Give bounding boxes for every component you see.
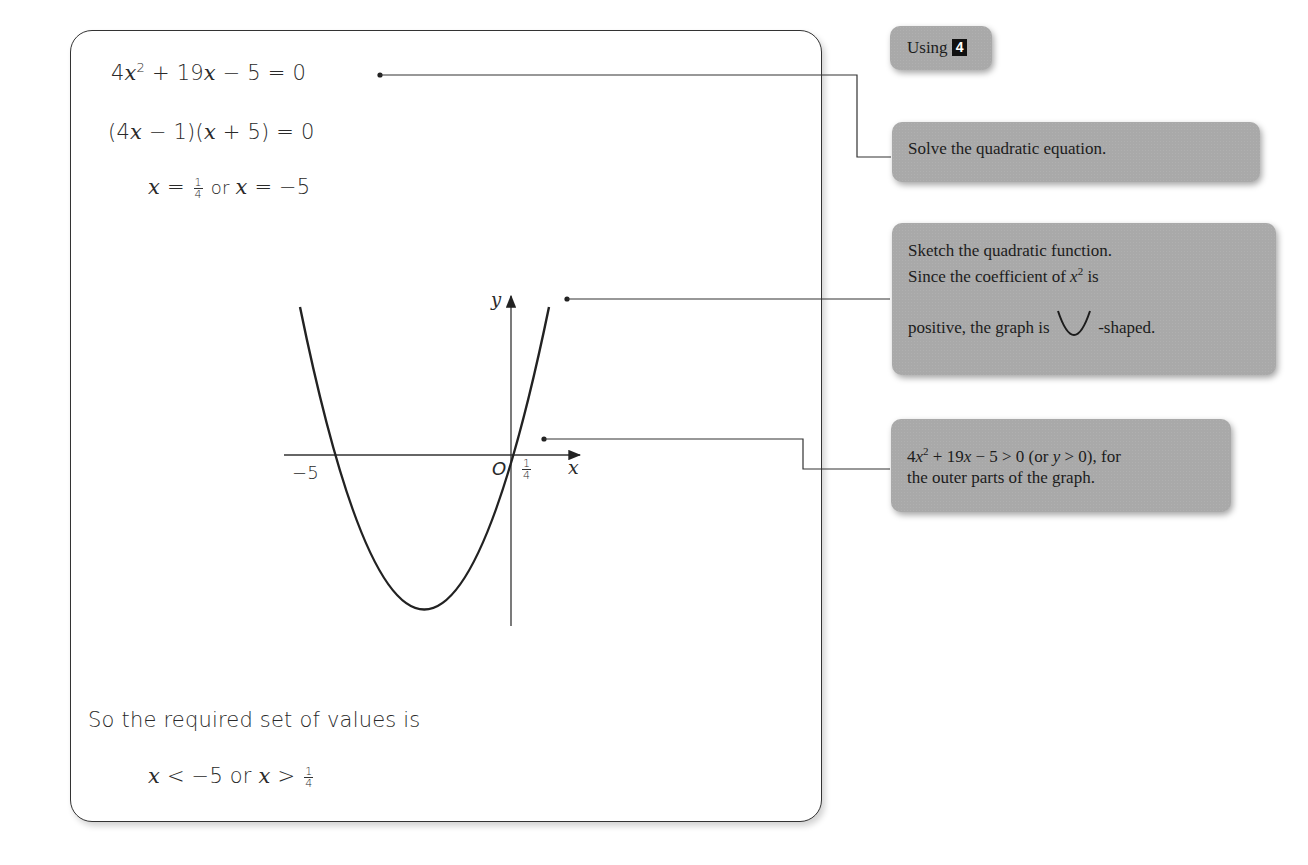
- conclusion-text: So the required set of values is: [88, 708, 421, 732]
- note-inequality-line2: the outer parts of the graph.: [907, 467, 1231, 488]
- answer-line: x < −5 or x > 14: [148, 764, 315, 789]
- connector-line-solve: [380, 75, 891, 157]
- text: − 5 > 0 (or: [971, 447, 1053, 466]
- root-right-label: 1 4: [522, 458, 531, 481]
- text: -shaped.: [1094, 318, 1155, 337]
- x-axis-label: x: [568, 456, 579, 478]
- denominator: 4: [522, 470, 531, 481]
- text: + 19: [929, 447, 964, 466]
- note-sketch-line3: positive, the graph is -shaped.: [908, 309, 1276, 341]
- note-sketch-line1: Sketch the quadratic function.: [908, 240, 1276, 261]
- note-solve-text: Solve the quadratic equation.: [908, 139, 1106, 158]
- term: < −5 or: [160, 764, 259, 788]
- text: > 0), for: [1060, 447, 1121, 466]
- coef: 4: [907, 447, 916, 466]
- numerator: 1: [304, 766, 313, 778]
- u-shape-icon: [1054, 309, 1094, 341]
- note-using-text: Using: [907, 38, 948, 57]
- note-solve: Solve the quadratic equation.: [892, 122, 1260, 182]
- fraction: 14: [304, 766, 313, 789]
- note-sketch: Sketch the quadratic function. Since the…: [892, 223, 1276, 375]
- text: positive, the graph is: [908, 318, 1054, 337]
- note-using: Using4: [890, 26, 992, 70]
- connector-line-inequality: [544, 439, 890, 469]
- step-badge: 4: [952, 39, 968, 56]
- y-axis-label: y: [491, 289, 501, 310]
- variable: x: [916, 447, 924, 466]
- variable: x: [259, 764, 271, 788]
- term: >: [271, 764, 303, 788]
- variable: x: [1070, 267, 1078, 286]
- text: is: [1083, 267, 1099, 286]
- origin-label: O: [492, 458, 506, 479]
- root-left-label: −5: [292, 462, 319, 483]
- variable: x: [148, 764, 160, 788]
- note-inequality-line1: 4x2 + 19x − 5 > 0 (or y > 0), for: [907, 441, 1231, 467]
- denominator: 4: [304, 778, 313, 789]
- text: Since the coefficient of: [908, 267, 1070, 286]
- note-sketch-line2: Since the coefficient of x2 is: [908, 261, 1276, 287]
- note-inequality: 4x2 + 19x − 5 > 0 (or y > 0), for the ou…: [891, 419, 1231, 512]
